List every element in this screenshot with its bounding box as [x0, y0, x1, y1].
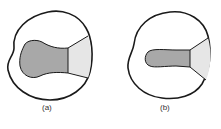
label-a: (a)	[42, 103, 52, 112]
figure-b	[128, 12, 211, 99]
dark-region-b	[145, 50, 190, 68]
diagram-canvas	[0, 0, 221, 129]
figure-a	[8, 11, 92, 100]
label-b: (b)	[160, 103, 170, 112]
